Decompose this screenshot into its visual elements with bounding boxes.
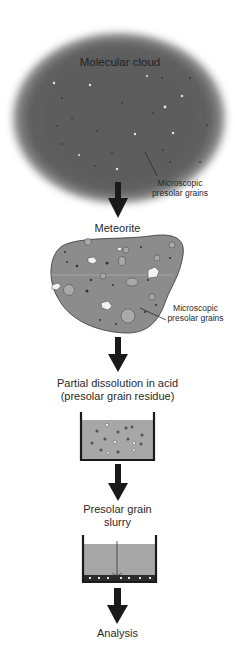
meteorite-annotation-line1: Microscopic [158,303,233,313]
slurry-label: Presolar grain slurry [60,503,175,529]
analysis-label: Analysis [60,627,175,640]
dissolution-label-line2: (presolar grain residue) [30,390,205,403]
meteorite-annotation-line2: presolar grains [158,313,233,323]
meteorite-annotation: Microscopic presolar grains [158,303,233,323]
molecular-cloud-label: Molecular cloud [40,56,200,69]
dissolution-label-line1: Partial dissolution in acid [30,377,205,390]
acid-beaker [81,412,154,460]
arrow-down-icon [108,464,128,501]
diagram-canvas [0,0,235,665]
dissolution-label: Partial dissolution in acid (presolar gr… [30,377,205,403]
slurry-beaker [83,535,156,582]
arrow-down-icon [108,337,128,372]
arrow-down-icon [107,588,128,624]
slurry-label-line1: Presolar grain [60,503,175,516]
cloud-annotation: Microscopic presolar grains [140,178,220,198]
slurry-label-line2: slurry [60,516,175,529]
cloud-annotation-line1: Microscopic [140,178,220,188]
meteorite-label: Meteorite [60,222,175,235]
cloud-annotation-line2: presolar grains [140,188,220,198]
